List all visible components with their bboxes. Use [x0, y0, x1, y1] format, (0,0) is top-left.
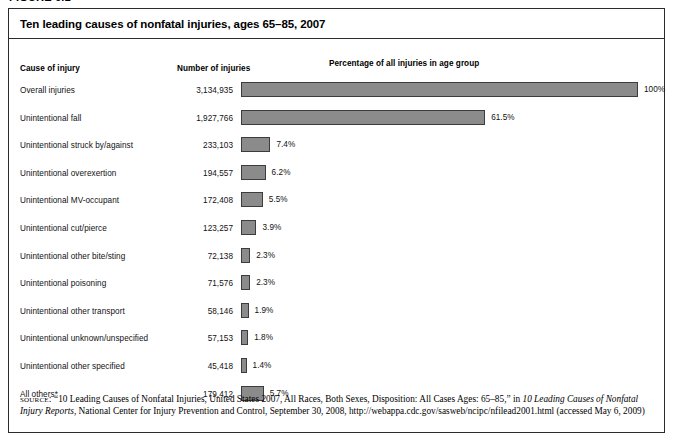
bar — [241, 330, 248, 345]
row-injury-count: 58,146 — [109, 307, 233, 316]
row-injury-count: 1,927,766 — [109, 114, 233, 123]
row-injury-count: 123,257 — [109, 224, 233, 233]
figure-panel: Ten leading causes of nonfatal injuries,… — [8, 8, 665, 433]
bar-value-label: 7.4% — [276, 140, 295, 149]
table-row: Unintentional poisoning71,5762.3% — [9, 274, 664, 302]
page-title: Ten leading causes of nonfatal injuries,… — [20, 18, 325, 30]
bar-track: 5.5% — [241, 191, 660, 219]
bar — [241, 275, 250, 290]
bar-value-label: 100% — [644, 85, 665, 94]
bar-track: 2.3% — [241, 247, 660, 275]
row-injury-count: 3,134,935 — [109, 86, 233, 95]
source-note: source: “10 Leading Causes of Nonfatal I… — [20, 393, 660, 417]
bar-track: 100% — [241, 81, 660, 109]
bar — [241, 358, 247, 373]
table-row: Unintentional cut/pierce123,2573.9% — [9, 219, 664, 247]
bar-value-label: 5.5% — [269, 195, 288, 204]
bar-track: 7.4% — [241, 136, 660, 164]
chart-rows: Overall injuries3,134,935100%Unintention… — [9, 81, 664, 412]
row-injury-count: 72,138 — [109, 252, 233, 261]
bar — [241, 192, 263, 207]
bar-value-label: 2.3% — [256, 251, 275, 260]
bar-value-label: 6.2% — [272, 168, 291, 177]
source-text-2: , National Center for Injury Prevention … — [74, 406, 645, 416]
table-row: Unintentional MV-occupant172,4085.5% — [9, 191, 664, 219]
bar-value-label: 1.9% — [255, 306, 274, 315]
bar-track: 3.9% — [241, 219, 660, 247]
bar — [241, 220, 256, 235]
source-prefix: source: — [20, 393, 52, 404]
source-text-1: “10 Leading Causes of Nonfatal Injuries,… — [52, 394, 523, 404]
table-row: Unintentional other transport58,1461.9% — [9, 302, 664, 330]
row-injury-count: 194,557 — [109, 169, 233, 178]
bar-track: 1.4% — [241, 357, 660, 385]
row-cause-label: Unintentional fall — [20, 114, 81, 123]
column-header-cause: Cause of injury — [20, 64, 80, 73]
bar — [241, 110, 485, 125]
bar — [241, 303, 249, 318]
figure-label: FIGURE 6.1 — [9, 0, 71, 3]
row-cause-label: Unintentional overexertion — [20, 169, 116, 178]
row-cause-label: Unintentional MV-occupant — [20, 196, 119, 205]
row-cause-label: Overall injuries — [20, 86, 75, 95]
table-row: Unintentional struck by/against233,1037.… — [9, 136, 664, 164]
table-row: Overall injuries3,134,935100% — [9, 81, 664, 109]
bar-value-label: 3.9% — [262, 223, 281, 232]
bar — [241, 137, 270, 152]
bar — [241, 248, 250, 263]
bar — [241, 82, 638, 97]
bar-value-label: 1.8% — [254, 333, 273, 342]
column-header-percentage: Percentage of all injuries in age group — [329, 59, 479, 68]
table-row: Unintentional other bite/sting72,1382.3% — [9, 247, 664, 275]
bar-track: 2.3% — [241, 274, 660, 302]
row-injury-count: 172,408 — [109, 196, 233, 205]
row-injury-count: 71,576 — [109, 279, 233, 288]
table-row: Unintentional unknown/unspecified57,1531… — [9, 329, 664, 357]
bar-value-label: 61.5% — [491, 113, 514, 122]
row-cause-label: Unintentional cut/pierce — [20, 224, 107, 233]
table-row: Unintentional fall1,927,76661.5% — [9, 109, 664, 137]
bar-track: 1.8% — [241, 329, 660, 357]
row-injury-count: 233,103 — [109, 141, 233, 150]
column-header-number: Number of injuries — [177, 64, 250, 73]
row-injury-count: 57,153 — [109, 334, 233, 343]
row-cause-label: Unintentional poisoning — [20, 279, 106, 288]
row-injury-count: 45,418 — [109, 362, 233, 371]
bar-track: 6.2% — [241, 164, 660, 192]
bar-value-label: 1.4% — [253, 361, 272, 370]
bar-value-label: 2.3% — [256, 278, 275, 287]
bar — [241, 165, 266, 180]
bar-track: 1.9% — [241, 302, 660, 330]
table-row: Unintentional overexertion194,5576.2% — [9, 164, 664, 192]
bar-track: 61.5% — [241, 109, 660, 137]
title-divider — [9, 38, 664, 39]
table-row: Unintentional other specified45,4181.4% — [9, 357, 664, 385]
